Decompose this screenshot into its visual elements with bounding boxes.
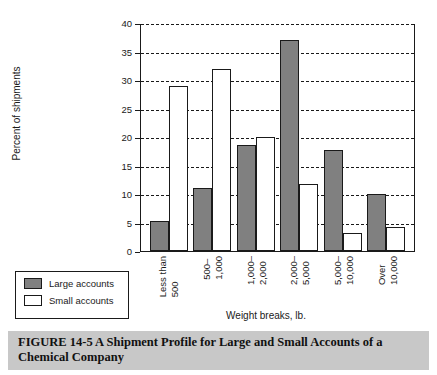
y-axis-tick-label: 0 <box>104 247 132 257</box>
y-axis-tick <box>135 167 140 168</box>
y-axis-tick-label: 35 <box>104 48 132 58</box>
bar-group <box>278 24 322 251</box>
bar[interactable] <box>150 221 169 251</box>
y-axis-tick <box>135 110 140 111</box>
y-axis-title: Percent of shipments <box>11 34 22 194</box>
bar[interactable] <box>280 40 299 251</box>
x-axis-category-line: Over <box>376 256 387 285</box>
x-axis-category: 1,000–2,000 <box>234 256 278 314</box>
y-axis-tick <box>135 195 140 196</box>
y-axis-tick-label: 15 <box>104 162 132 172</box>
y-axis-tick-label: 5 <box>104 219 132 229</box>
x-axis-category: Less than500 <box>146 256 190 314</box>
bar-group <box>191 24 235 251</box>
bar[interactable] <box>343 233 362 251</box>
x-axis-title: Weight breaks, lb. <box>196 310 336 321</box>
x-axis-category: 2,000–5,000 <box>277 256 321 314</box>
x-axis-category-line: 2,000– <box>288 256 299 285</box>
x-axis-category-line: Less than <box>156 256 167 297</box>
bar[interactable] <box>212 69 231 251</box>
x-axis-category-line: 500 <box>168 256 179 297</box>
x-axis-category-line: 500– <box>200 256 211 280</box>
legend-item[interactable]: Large accounts <box>24 278 128 289</box>
y-axis-tick-label: 10 <box>104 190 132 200</box>
legend-label: Small accounts <box>49 295 113 306</box>
bar[interactable] <box>193 188 212 251</box>
bar-group <box>321 24 365 251</box>
x-axis-category-line: 1,000– <box>244 256 255 285</box>
legend-swatch <box>24 278 42 289</box>
figure-caption: FIGURE 14-5 A Shipment Profile for Large… <box>18 335 419 365</box>
legend-swatch <box>24 295 42 306</box>
y-axis-tick-label: 30 <box>104 76 132 86</box>
legend-label: Large accounts <box>49 278 114 289</box>
figure-container: 0510152025303540 Percent of shipments Le… <box>0 0 437 375</box>
x-axis-category: 5,000–10,000 <box>321 256 365 314</box>
bar[interactable] <box>237 145 256 251</box>
bar[interactable] <box>324 150 343 251</box>
bar-group <box>365 24 409 251</box>
y-axis-tick <box>135 81 140 82</box>
bar[interactable] <box>299 184 318 251</box>
y-axis-tick <box>135 53 140 54</box>
bar-group <box>147 24 191 251</box>
y-axis-tick-label: 25 <box>104 105 132 115</box>
x-axis-category-line: 5,000– <box>332 256 343 285</box>
x-axis-category-line: 1,000 <box>212 256 223 280</box>
x-axis-category-line: 10,000 <box>344 256 355 285</box>
y-axis-tick <box>135 252 140 253</box>
y-axis-tick-label: 20 <box>104 133 132 143</box>
y-axis-tick-label: 40 <box>104 19 132 29</box>
x-axis-category: 500–1,000 <box>190 256 234 314</box>
plot-area <box>140 24 415 252</box>
bar[interactable] <box>367 194 386 251</box>
bar-group <box>234 24 278 251</box>
y-axis-tick <box>135 138 140 139</box>
bar[interactable] <box>169 86 188 251</box>
y-axis-tick <box>135 24 140 25</box>
legend-item[interactable]: Small accounts <box>24 295 128 306</box>
x-axis-category-line: 2,000 <box>256 256 267 285</box>
x-axis-category-line: 5,000 <box>300 256 311 285</box>
x-axis-category-line: 10,000 <box>388 256 399 285</box>
y-axis-tick <box>135 224 140 225</box>
x-axis-category-labels: Less than500500–1,0001,000–2,0002,000–5,… <box>140 256 415 314</box>
bar[interactable] <box>256 137 275 251</box>
bar-groups <box>141 24 414 251</box>
legend: Large accountsSmall accounts <box>15 271 129 319</box>
bar[interactable] <box>386 227 405 252</box>
x-axis-category: Over10,000 <box>365 256 409 314</box>
caption-band: FIGURE 14-5 A Shipment Profile for Large… <box>8 331 429 370</box>
